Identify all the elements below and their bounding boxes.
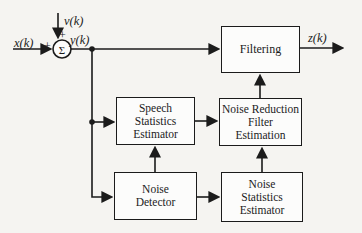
junction-dot-y <box>89 46 95 52</box>
sigma-symbol: Σ <box>59 44 65 56</box>
block-speech-statistics-estimator: Speech Statistics Estimator <box>116 97 195 145</box>
signal-label-y: y(k) <box>70 34 89 46</box>
plus-sign-v-input: + <box>59 30 66 40</box>
signal-label-x: x(k) <box>14 37 33 49</box>
block-noise-statistics-estimator: Noise Statistics Estimator <box>221 172 303 222</box>
block-filtering: Filtering <box>221 26 300 73</box>
signal-label-v: v(k) <box>64 15 83 27</box>
plus-sign-x-input: + <box>44 41 51 51</box>
block-diagram: Σ x(k) + v(k) + y(k) z(k) Filtering Spee… <box>0 0 362 233</box>
block-noise-reduction-filter-estimation: Noise Reduction Filter Estimation <box>219 98 302 146</box>
wire-feed-to-noise-detector <box>92 49 111 197</box>
signal-label-z: z(k) <box>308 32 327 44</box>
junction-dot-branch <box>89 119 95 125</box>
block-noise-detector: Noise Detector <box>114 172 197 220</box>
